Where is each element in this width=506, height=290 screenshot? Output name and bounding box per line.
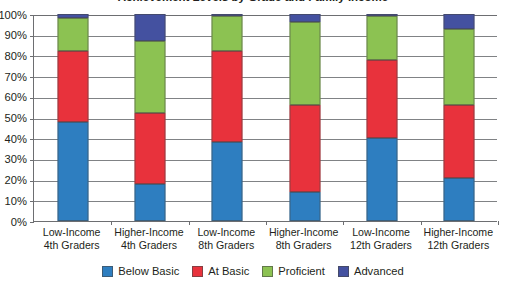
bar-segment-advanced[interactable] bbox=[366, 14, 397, 16]
legend-item-advanced[interactable]: Advanced bbox=[338, 266, 404, 277]
bar-segment-below-basic[interactable] bbox=[289, 192, 320, 221]
legend-swatch-icon bbox=[338, 266, 349, 277]
y-axis-tick-label: 60% bbox=[5, 92, 27, 103]
bar-segment-proficient[interactable] bbox=[444, 29, 475, 106]
chart-title: Achievement Levels by Grade and Family I… bbox=[0, 0, 506, 3]
bar-group[interactable] bbox=[266, 15, 343, 221]
x-axis-category-line2: 4th Graders bbox=[110, 239, 187, 252]
stacked-bar[interactable] bbox=[212, 15, 243, 221]
bar-segment-proficient[interactable] bbox=[134, 41, 165, 113]
chart-title-cropped: Achievement Levels by Grade and Family I… bbox=[0, 0, 506, 3]
x-axis-category-line2: 12th Graders bbox=[420, 239, 497, 252]
bar-group[interactable] bbox=[421, 15, 498, 221]
x-axis-category-label: Low-Income4th Graders bbox=[33, 226, 110, 252]
legend-item-at-basic[interactable]: At Basic bbox=[192, 266, 249, 277]
bar-group[interactable] bbox=[343, 15, 420, 221]
bar-segment-at-basic[interactable] bbox=[134, 113, 165, 183]
y-axis-labels: 100%90%80%70%60%50%40%30%20%10%0% bbox=[0, 15, 33, 222]
bar-segment-at-basic[interactable] bbox=[212, 51, 243, 142]
bar-segment-advanced[interactable] bbox=[57, 14, 88, 18]
x-axis-category-line1: Low-Income bbox=[342, 226, 419, 239]
bar-segment-below-basic[interactable] bbox=[212, 142, 243, 221]
bar-group[interactable] bbox=[189, 15, 266, 221]
x-axis-category-label: Higher-Income8th Graders bbox=[265, 226, 342, 252]
legend-label: Proficient bbox=[278, 266, 325, 277]
y-axis-tick-label: 100% bbox=[0, 10, 27, 21]
y-axis-tick-label: 50% bbox=[5, 113, 27, 124]
y-axis-tick-label: 20% bbox=[5, 175, 27, 186]
stacked-bar[interactable] bbox=[289, 15, 320, 221]
x-axis-category-label: Low-Income8th Graders bbox=[188, 226, 265, 252]
bar-segment-advanced[interactable] bbox=[444, 14, 475, 28]
legend-label: Below Basic bbox=[118, 266, 179, 277]
x-axis-labels: Low-Income4th GradersHigher-Income4th Gr… bbox=[33, 226, 497, 260]
x-axis-category-label: Higher-Income12th Graders bbox=[420, 226, 497, 252]
x-axis-category-line1: Low-Income bbox=[188, 226, 265, 239]
legend-label: Advanced bbox=[354, 266, 404, 277]
legend-label: At Basic bbox=[208, 266, 249, 277]
legend-item-below-basic[interactable]: Below Basic bbox=[102, 266, 179, 277]
x-axis-category-line2: 12th Graders bbox=[342, 239, 419, 252]
x-axis-category-label: Low-Income12th Graders bbox=[342, 226, 419, 252]
bar-group[interactable] bbox=[111, 15, 188, 221]
chart-legend: Below BasicAt BasicProficientAdvanced bbox=[0, 266, 506, 277]
bar-segment-advanced[interactable] bbox=[289, 14, 320, 22]
bar-segment-advanced[interactable] bbox=[212, 14, 243, 16]
y-axis-tick-label: 0% bbox=[11, 217, 27, 228]
x-axis-tick bbox=[343, 221, 344, 225]
stacked-bar[interactable] bbox=[134, 15, 165, 221]
x-axis-category-label: Higher-Income4th Graders bbox=[110, 226, 187, 252]
bar-segment-advanced[interactable] bbox=[134, 14, 165, 41]
bar-segment-below-basic[interactable] bbox=[444, 178, 475, 221]
stacked-bar[interactable] bbox=[366, 15, 397, 221]
plot-area bbox=[33, 15, 497, 222]
x-axis-category-line2: 4th Graders bbox=[33, 239, 110, 252]
y-axis-tick-label: 70% bbox=[5, 72, 27, 83]
legend-swatch-icon bbox=[102, 266, 113, 277]
x-axis-category-line1: Low-Income bbox=[33, 226, 110, 239]
bar-group[interactable] bbox=[34, 15, 111, 221]
x-axis-tick bbox=[111, 221, 112, 225]
stacked-bar[interactable] bbox=[444, 15, 475, 221]
legend-swatch-icon bbox=[262, 266, 273, 277]
y-axis-tick-label: 90% bbox=[5, 30, 27, 41]
bar-segment-proficient[interactable] bbox=[212, 16, 243, 51]
x-axis-tick bbox=[189, 221, 190, 225]
x-axis-category-line1: Higher-Income bbox=[110, 226, 187, 239]
bar-segment-at-basic[interactable] bbox=[366, 60, 397, 139]
y-axis-tick-label: 80% bbox=[5, 51, 27, 62]
y-axis-tick-label: 30% bbox=[5, 154, 27, 165]
y-axis-tick-label: 10% bbox=[5, 196, 27, 207]
x-axis-category-line1: Higher-Income bbox=[265, 226, 342, 239]
bar-segment-proficient[interactable] bbox=[57, 18, 88, 51]
bar-segment-at-basic[interactable] bbox=[444, 105, 475, 177]
x-axis-tick bbox=[421, 221, 422, 225]
x-axis-tick bbox=[266, 221, 267, 225]
x-axis-category-line2: 8th Graders bbox=[265, 239, 342, 252]
x-axis-tick bbox=[498, 221, 499, 225]
legend-swatch-icon bbox=[192, 266, 203, 277]
bar-segment-proficient[interactable] bbox=[289, 22, 320, 105]
stacked-bar-chart: Achievement Levels by Grade and Family I… bbox=[0, 0, 506, 290]
y-axis-tick bbox=[30, 222, 34, 223]
bar-segment-below-basic[interactable] bbox=[57, 122, 88, 221]
y-axis-tick-label: 40% bbox=[5, 134, 27, 145]
x-axis-category-line2: 8th Graders bbox=[188, 239, 265, 252]
bar-segment-proficient[interactable] bbox=[366, 16, 397, 59]
bar-series-container bbox=[34, 15, 497, 221]
stacked-bar[interactable] bbox=[57, 15, 88, 221]
bar-segment-below-basic[interactable] bbox=[134, 184, 165, 221]
bar-segment-below-basic[interactable] bbox=[366, 138, 397, 221]
x-axis-category-line1: Higher-Income bbox=[420, 226, 497, 239]
bar-segment-at-basic[interactable] bbox=[289, 105, 320, 192]
legend-item-proficient[interactable]: Proficient bbox=[262, 266, 325, 277]
bar-segment-at-basic[interactable] bbox=[57, 51, 88, 121]
